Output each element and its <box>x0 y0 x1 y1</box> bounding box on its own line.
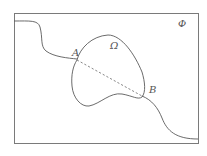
label-phi: Φ <box>178 18 186 29</box>
label-b: B <box>148 84 156 95</box>
omega-region <box>72 35 145 106</box>
boundary-curve-right <box>142 96 198 139</box>
frame-rectangle <box>15 14 199 144</box>
segment-ab-dashed <box>77 60 142 96</box>
boundary-curve-left <box>14 21 77 59</box>
label-a: A <box>71 47 79 58</box>
label-omega: Ω <box>109 40 118 51</box>
diagram-canvas: A Ω B Φ <box>0 0 207 156</box>
